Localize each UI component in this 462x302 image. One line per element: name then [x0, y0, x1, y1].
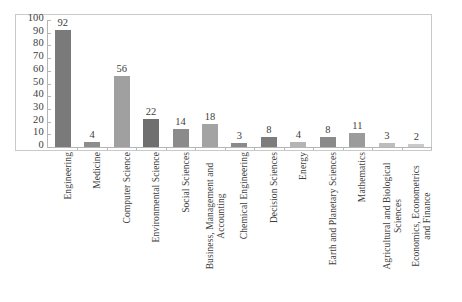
- y-axis-tick-mark: [47, 122, 51, 123]
- bar-value-label: 8: [325, 124, 330, 135]
- y-axis-tick-mark: [47, 134, 51, 135]
- y-axis-tick-label: 10: [33, 127, 44, 137]
- category-label-text: Earth and Planetary Sciences: [328, 152, 339, 265]
- category-label-text: Environmental Science: [151, 152, 162, 242]
- bar-value-label: 3: [237, 130, 242, 141]
- bar: [202, 124, 218, 147]
- bar-group: 4: [77, 20, 106, 147]
- bar-value-label: 18: [205, 111, 216, 122]
- bar-group: 2: [402, 20, 431, 147]
- y-axis-tick-label: 20: [33, 115, 44, 125]
- category-label-text: Business, Management andAccounting: [205, 152, 226, 280]
- bar: [173, 129, 189, 147]
- bar-value-label: 22: [146, 106, 157, 117]
- y-axis-tick-mark: [47, 71, 51, 72]
- bar: [84, 142, 100, 147]
- bars-layer: 9245622141838481132: [48, 20, 431, 147]
- bar-value-label: 14: [175, 116, 186, 127]
- x-axis-tick-mark: [136, 147, 137, 150]
- x-axis-category-label: Computer Science: [107, 152, 136, 282]
- category-label-text: Agricultural and BiologicalSciences: [382, 152, 403, 280]
- y-axis-tick-label: 30: [33, 102, 44, 112]
- category-label-line: Economics, Econometrics: [411, 152, 422, 280]
- y-axis-tick-label: 0: [39, 140, 44, 150]
- y-axis-tick-mark: [47, 45, 51, 46]
- bar-group: 4: [284, 20, 313, 147]
- bar-value-label: 11: [352, 120, 362, 131]
- bar-group: 18: [195, 20, 224, 147]
- bar-group: 3: [372, 20, 401, 147]
- x-axis-tick-mark: [225, 147, 226, 150]
- category-label-text: Social Sciences: [181, 152, 192, 213]
- y-axis: 1009080706050403020100: [18, 17, 44, 146]
- x-axis-tick-mark: [402, 147, 403, 150]
- y-axis-tick-mark: [47, 96, 51, 97]
- x-axis-category-label: Social Sciences: [166, 152, 195, 282]
- category-label-text: Engineering: [63, 152, 74, 200]
- category-label-text: Decision Sciences: [269, 152, 280, 223]
- x-axis-tick-mark: [166, 147, 167, 150]
- category-label-text: Chemical Engineering: [239, 152, 250, 239]
- x-axis-category-label: Medicine: [77, 152, 106, 282]
- y-axis-tick-label: 70: [33, 51, 44, 61]
- category-label-text: Mathematics: [357, 152, 368, 202]
- x-axis-tick-mark: [77, 147, 78, 150]
- x-axis-tick-mark: [254, 147, 255, 150]
- category-label-line: and Finance: [422, 152, 433, 280]
- y-axis-tick-mark: [47, 20, 51, 21]
- x-axis-tick-mark: [107, 147, 108, 150]
- bar-value-label: 4: [296, 129, 301, 140]
- y-axis-tick-mark: [47, 147, 51, 148]
- x-axis-category-label: Energy: [284, 152, 313, 282]
- y-axis-tick-label: 50: [33, 77, 44, 87]
- bar-value-label: 92: [57, 17, 68, 28]
- x-axis-category-label: Mathematics: [343, 152, 372, 282]
- y-axis-tick-mark: [47, 84, 51, 85]
- bar: [290, 142, 306, 147]
- bar-group: 3: [225, 20, 254, 147]
- x-axis-tick-mark: [343, 147, 344, 150]
- x-axis-tick-mark: [313, 147, 314, 150]
- x-axis-category-label: Agricultural and BiologicalSciences: [372, 152, 401, 282]
- x-axis-category-label: Business, Management andAccounting: [195, 152, 224, 282]
- x-axis-category-label: Engineering: [48, 152, 77, 282]
- x-axis-category-label: Environmental Science: [136, 152, 165, 282]
- y-axis-tick-label: 100: [28, 13, 44, 23]
- x-axis-category-label: Chemical Engineering: [225, 152, 254, 282]
- y-axis-tick-label: 60: [33, 64, 44, 74]
- bar-group: 11: [343, 20, 372, 147]
- bar: [114, 76, 130, 147]
- bar: [261, 137, 277, 147]
- category-label-line: Agricultural and Biological: [382, 152, 393, 280]
- y-axis-tick-mark: [47, 58, 51, 59]
- bar: [143, 119, 159, 147]
- y-axis-tick-mark: [47, 109, 51, 110]
- x-axis-tick-mark: [372, 147, 373, 150]
- category-label-line: Business, Management and: [205, 152, 216, 280]
- bar-chart: 1009080706050403020100 92456221418384811…: [0, 0, 462, 302]
- category-label-text: Economics, Econometricsand Finance: [411, 152, 432, 280]
- x-axis-line: [47, 147, 431, 148]
- bar-group: 8: [313, 20, 342, 147]
- category-label-text: Energy: [298, 152, 309, 180]
- bar-group: 22: [136, 20, 165, 147]
- bar: [320, 137, 336, 147]
- x-axis-tick-mark: [284, 147, 285, 150]
- bar-value-label: 56: [116, 63, 127, 74]
- category-label-text: Computer Science: [122, 152, 133, 224]
- x-axis-tick-mark: [195, 147, 196, 150]
- x-axis-category-label: Economics, Econometricsand Finance: [402, 152, 431, 282]
- x-axis-category-label: Earth and Planetary Sciences: [313, 152, 342, 282]
- bar-group: 92: [48, 20, 77, 147]
- x-axis-category-labels: EngineeringMedicineComputer ScienceEnvir…: [48, 152, 431, 282]
- bar: [408, 144, 424, 147]
- y-axis-tick-label: 80: [33, 38, 44, 48]
- bar-group: 8: [254, 20, 283, 147]
- bar-group: 14: [166, 20, 195, 147]
- y-axis-tick-mark: [47, 33, 51, 34]
- bar: [55, 30, 71, 147]
- bar-value-label: 8: [266, 124, 271, 135]
- bar-value-label: 3: [384, 130, 389, 141]
- y-axis-tick-label: 90: [33, 26, 44, 36]
- bar-value-label: 4: [90, 129, 95, 140]
